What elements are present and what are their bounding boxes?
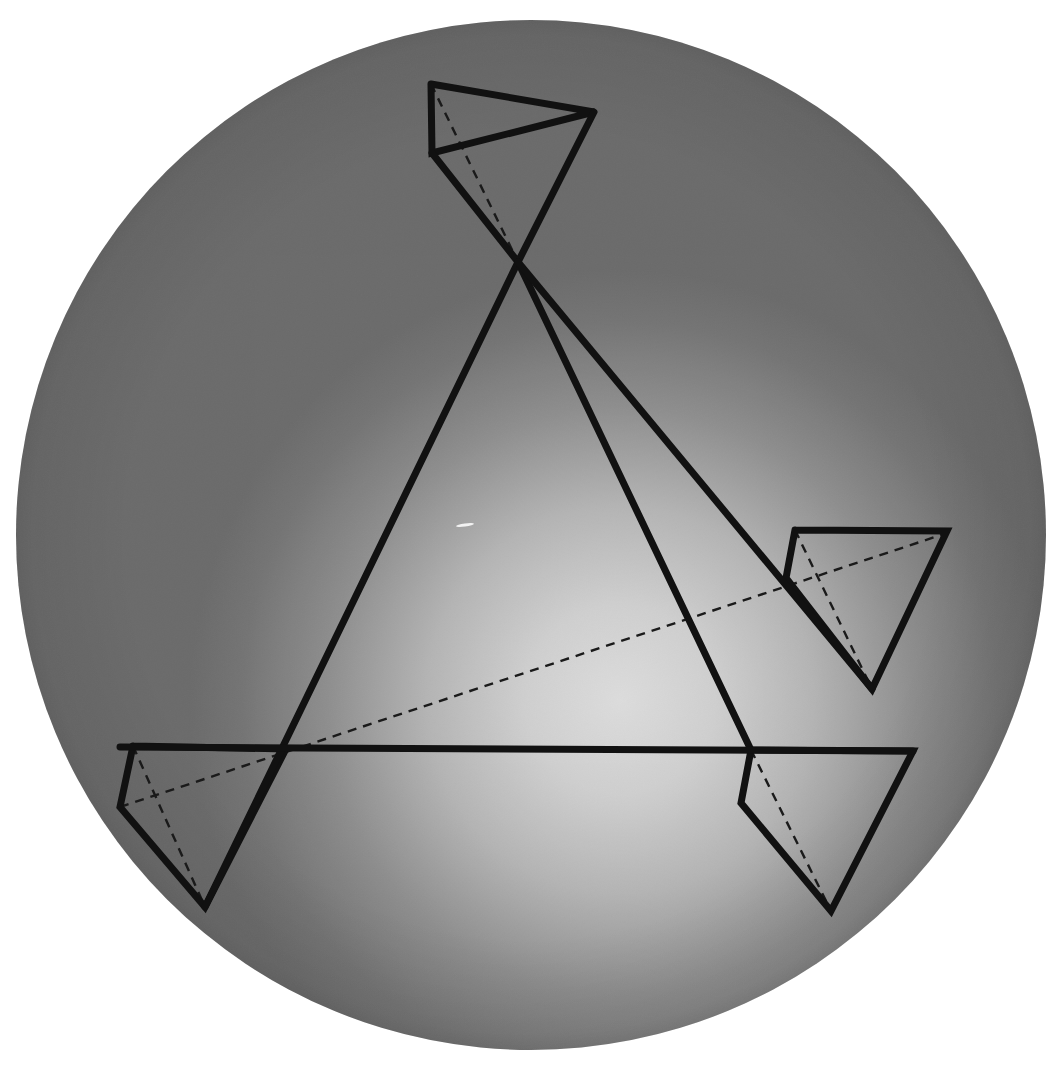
- horizontal-axis-line: [120, 747, 913, 751]
- figure-canvas: [0, 0, 1055, 1091]
- geometry-diagram: [0, 0, 1055, 1091]
- sphere-group: [0, 0, 1055, 1091]
- sphere-grain-texture: [0, 0, 1055, 1091]
